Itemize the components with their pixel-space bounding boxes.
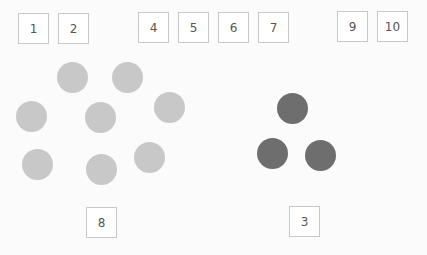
number-box-6[interactable]: 6 — [218, 12, 249, 43]
number-box-label: 5 — [190, 21, 198, 35]
number-box-label: 8 — [98, 216, 106, 230]
number-box-8[interactable]: 8 — [86, 207, 117, 238]
number-box-label: 4 — [150, 21, 158, 35]
number-box-4[interactable]: 4 — [138, 12, 169, 43]
number-box-2[interactable]: 2 — [58, 13, 89, 44]
number-box-9[interactable]: 9 — [337, 11, 368, 42]
light-circle — [22, 149, 53, 180]
light-circle — [16, 101, 47, 132]
number-box-3[interactable]: 3 — [289, 206, 320, 237]
number-box-label: 2 — [70, 22, 78, 36]
number-box-7[interactable]: 7 — [258, 12, 289, 43]
dark-circle — [277, 93, 308, 124]
number-box-1[interactable]: 1 — [18, 13, 49, 44]
number-box-5[interactable]: 5 — [178, 12, 209, 43]
number-box-10[interactable]: 10 — [377, 11, 408, 42]
number-box-label: 1 — [30, 22, 38, 36]
number-box-label: 10 — [385, 20, 400, 34]
dark-circle — [305, 140, 336, 171]
light-circle — [154, 92, 185, 123]
number-box-label: 6 — [230, 21, 238, 35]
light-circle — [86, 154, 117, 185]
number-box-label: 7 — [270, 21, 278, 35]
number-box-label: 9 — [349, 20, 357, 34]
number-box-label: 3 — [301, 215, 309, 229]
light-circle — [85, 102, 116, 133]
light-circle — [57, 62, 88, 93]
dark-circle — [257, 138, 288, 169]
light-circle — [112, 62, 143, 93]
light-circle — [134, 142, 165, 173]
